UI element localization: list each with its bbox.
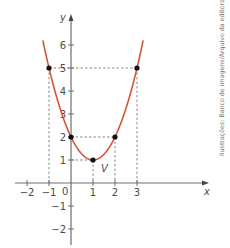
y-tick-label: 6 bbox=[60, 40, 66, 51]
y-tick-label: −1 bbox=[51, 201, 66, 212]
y-tick-label: 5 bbox=[60, 63, 66, 74]
image-credit: Ilustrações: Banco de imagens/Arquivo da… bbox=[218, 6, 228, 156]
parabola-chart: −2−1123−2−1123456 x y 0 V bbox=[0, 0, 230, 248]
data-point bbox=[134, 65, 139, 70]
y-tick-label: −2 bbox=[51, 224, 66, 235]
data-point bbox=[46, 65, 51, 70]
origin-label: 0 bbox=[62, 186, 68, 197]
data-point bbox=[68, 134, 73, 139]
axis-ticks: −2−1123−2−1123456 bbox=[20, 40, 141, 235]
y-axis-label: y bbox=[59, 12, 67, 23]
vertex-label: V bbox=[101, 163, 109, 174]
y-tick-label: 1 bbox=[60, 155, 66, 166]
x-axis-arrow-icon bbox=[202, 181, 209, 186]
x-tick-label: 1 bbox=[90, 187, 96, 198]
x-tick-label: −1 bbox=[42, 187, 57, 198]
data-point bbox=[90, 157, 95, 162]
x-tick-label: −2 bbox=[20, 187, 35, 198]
parabola-curve bbox=[43, 40, 143, 160]
x-axis-label: x bbox=[203, 186, 210, 197]
y-tick-label: 2 bbox=[60, 132, 66, 143]
credit-text: Ilustrações: Banco de imagens/Arquivo da… bbox=[218, 0, 225, 156]
data-point bbox=[112, 134, 117, 139]
x-tick-label: 3 bbox=[134, 187, 140, 198]
y-tick-label: 4 bbox=[60, 86, 66, 97]
x-tick-label: 2 bbox=[112, 187, 118, 198]
y-axis-arrow-icon bbox=[69, 14, 74, 21]
